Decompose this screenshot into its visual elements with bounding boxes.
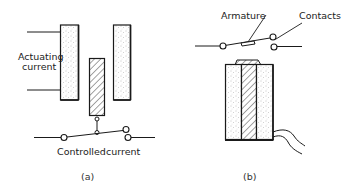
leader-contacts: [276, 23, 302, 39]
relay-diagram: Actuating current Controlled current (a)…: [0, 0, 352, 194]
caption-b: (b): [243, 171, 256, 182]
label-contacts: Contacts: [299, 10, 341, 21]
lead-wire-2: [273, 136, 302, 154]
contact-lower-b: [271, 44, 277, 50]
contact-upper-b: [270, 34, 276, 40]
pivot-top: [95, 117, 99, 121]
armature-a: [90, 59, 105, 116]
contact-left-a: [61, 135, 67, 141]
coil-left: [226, 65, 242, 140]
core: [242, 65, 257, 140]
contact-lower-a: [125, 135, 131, 141]
contact-upper-a: [123, 127, 129, 133]
contact-left-b: [220, 43, 226, 49]
label-controlled-current: current: [106, 146, 141, 157]
label-actuating-2: current: [22, 61, 57, 72]
panel-a: Actuating current Controlled current (a): [18, 25, 155, 182]
panel-b: Armature Contacts (b): [195, 10, 341, 182]
magnet-pole-left: [61, 25, 79, 100]
label-armature: Armature: [221, 10, 266, 21]
coil-right: [257, 65, 274, 140]
magnet-pole-right: [114, 25, 131, 100]
caption-a: (a): [81, 171, 94, 182]
label-controlled: Controlled: [57, 146, 106, 157]
